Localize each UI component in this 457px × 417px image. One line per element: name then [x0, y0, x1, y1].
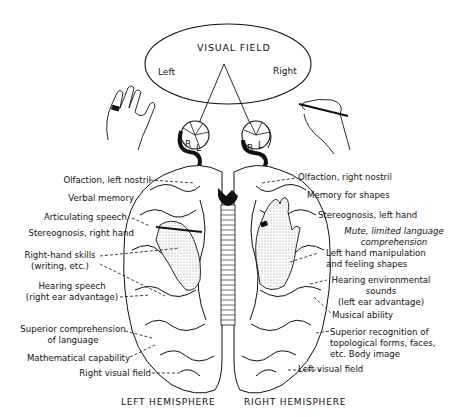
left-eye-icon: R L [180, 121, 209, 172]
label-right-visual-field: Right visual field [79, 368, 151, 379]
label-superior-recognition: Superior recognition of topological form… [330, 327, 435, 360]
label-mute-limited-language: Mute, limited language comprehension [336, 226, 452, 248]
label-mathematical-capability: Mathematical capability [27, 353, 130, 364]
svg-text:L: L [196, 143, 201, 153]
label-olfaction-left: Olfaction, left nostril [63, 175, 151, 186]
split-brain-diagram: R L R L [0, 0, 457, 417]
left-hemisphere-drawing [124, 165, 222, 393]
svg-text:R: R [247, 143, 253, 153]
label-stereognosis-right-hand: Stereognosis, right hand [28, 228, 134, 239]
svg-text:R: R [185, 139, 191, 149]
label-stereognosis-left-hand: Stereognosis, left hand [318, 210, 417, 221]
visual-field-title: VISUAL FIELD [197, 42, 271, 53]
label-olfaction-right: Olfaction, right nostril [298, 172, 392, 183]
label-articulating-speech: Articulating speech [44, 212, 127, 223]
label-hearing-environmental: Hearing environmental sounds (left ear a… [330, 275, 432, 308]
visual-field-left-label: Left [158, 67, 175, 77]
label-left-visual-field: Left visual field [298, 364, 363, 375]
left-hand-icon [107, 86, 155, 150]
right-eye-icon: R L [242, 121, 271, 172]
left-hemisphere-caption: LEFT HEMISPHERE [121, 397, 216, 407]
label-verbal-memory: Verbal memory [68, 193, 134, 204]
label-left-hand-manipulation: Left hand manipulation and feeling shape… [326, 248, 426, 270]
visual-field-right-label: Right [273, 66, 297, 76]
label-hearing-speech: Hearing speech (right ear advantage) [22, 281, 122, 303]
label-superior-comprehension: Superior comprehension of language [20, 324, 126, 346]
label-right-hand-skills: Right-hand skills (writing, etc.) [20, 250, 100, 272]
svg-text:L: L [258, 140, 263, 150]
corpus-callosum [218, 188, 238, 325]
label-memory-for-shapes: Memory for shapes [307, 190, 390, 201]
label-musical-ability: Musical ability [332, 310, 393, 321]
right-hand-writing-icon [299, 99, 350, 154]
visual-field-ellipse [145, 24, 311, 104]
right-hemisphere-caption: RIGHT HEMISPHERE [244, 397, 346, 407]
